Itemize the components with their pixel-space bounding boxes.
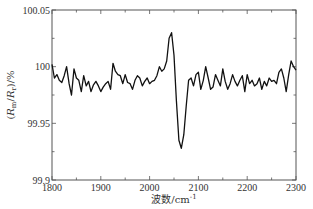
- x-tick-labels: 180019002000210022002300: [42, 182, 306, 193]
- y-axis-label: (Rm/Rr)/%: [5, 70, 18, 119]
- plot-frame: [52, 10, 296, 180]
- chart: 180019002000210022002300 99.999.95100100…: [0, 0, 313, 209]
- axis-ticks: [52, 10, 296, 180]
- x-tick-label: 2300: [286, 182, 306, 193]
- x-axis-label: 波数/cm-1: [151, 193, 196, 205]
- y-tick-label: 100.05: [23, 5, 51, 16]
- x-tick-label: 2000: [140, 182, 160, 193]
- data-line: [52, 33, 296, 149]
- x-tick-label: 1900: [91, 182, 111, 193]
- y-tick-labels: 99.999.95100100.05: [23, 5, 51, 186]
- y-tick-label: 99.95: [28, 118, 51, 129]
- x-tick-label: 2200: [237, 182, 257, 193]
- y-tick-label: 99.9: [33, 175, 51, 186]
- x-tick-label: 2100: [188, 182, 208, 193]
- y-tick-label: 100: [35, 61, 50, 72]
